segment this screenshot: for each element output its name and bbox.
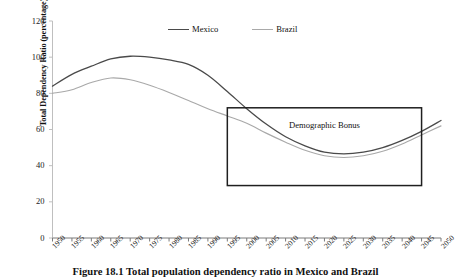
axis-ticks — [49, 21, 441, 242]
figure-caption: Figure 18.1 Total population dependency … — [0, 266, 451, 277]
y-tick-label: 0 — [19, 233, 45, 243]
legend-item-brazil: Brazil — [252, 24, 297, 34]
legend-swatch-mexico — [168, 29, 189, 30]
legend-swatch-brazil — [252, 29, 273, 30]
y-tick-label: 40 — [19, 160, 45, 170]
y-tick-label: 60 — [19, 124, 45, 134]
y-tick-label: 100 — [19, 52, 45, 62]
y-tick-label: 80 — [19, 88, 45, 98]
legend-item-mexico: Mexico — [168, 24, 218, 34]
demographic-bonus-label: Demographic Bonus — [227, 120, 421, 130]
chart-legend: Mexico Brazil — [168, 24, 297, 34]
series-lines — [53, 56, 442, 157]
legend-label-mexico: Mexico — [192, 24, 218, 34]
y-tick-label: 20 — [19, 196, 45, 206]
legend-label-brazil: Brazil — [276, 24, 297, 34]
y-tick-label: 120 — [19, 16, 45, 26]
